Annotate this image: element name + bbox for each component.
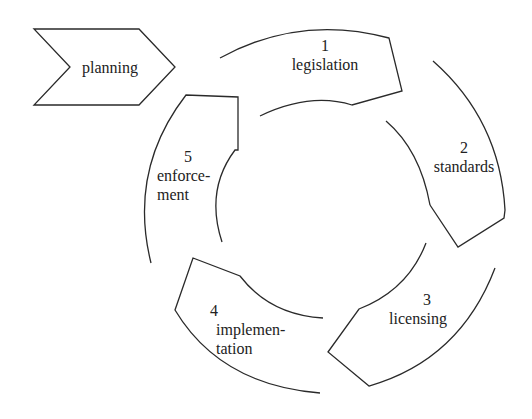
stage-3-label: 3 licensing [380, 290, 456, 328]
planning-label: planning [82, 58, 138, 77]
stage-4-label: 4 implemen- tation [210, 301, 285, 358]
stage-2-standards-inner-arc [386, 121, 430, 205]
stage-2-number: 2 [426, 138, 502, 157]
stage-5-label: 5 enforce- ment [157, 147, 210, 204]
stage-4-text-line2: tation [210, 339, 285, 358]
stage-5-number: 5 [157, 147, 210, 166]
stage-1-text: legislation [285, 55, 365, 74]
stage-5-text-line1: enforce- [157, 166, 210, 185]
stage-1-label: 1 legislation [285, 36, 365, 74]
stage-2-text: standards [426, 157, 502, 176]
stage-4-text-line1: implemen- [210, 320, 285, 339]
stage-1-number: 1 [285, 36, 365, 55]
stage-5-text-line2: ment [157, 185, 210, 204]
stage-3-number: 3 [380, 290, 456, 309]
stage-2-label: 2 standards [426, 138, 502, 176]
stage-3-text: licensing [380, 309, 456, 328]
stage-4-number: 4 [210, 301, 285, 320]
